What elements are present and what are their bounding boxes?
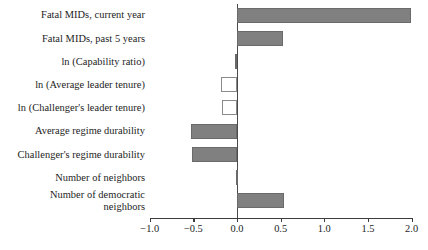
bar-6	[192, 147, 237, 162]
plot-area	[151, 4, 417, 218]
bar-4	[222, 100, 237, 115]
category-label-4: ln (Challenger's leader tenure)	[0, 102, 145, 113]
category-label-8: Number of democratic neighbors	[0, 189, 145, 211]
bar-8	[237, 193, 284, 208]
bar-chart-figure: Fatal MIDs, current yearFatal MIDs, past…	[0, 0, 428, 250]
x-axis: −1.0−0.50.00.51.01.52.0	[151, 218, 417, 248]
bar-2	[235, 54, 237, 69]
x-tick-label-3: 0.5	[259, 223, 303, 234]
x-tick-label-1: −0.5	[171, 223, 215, 234]
x-tick-3	[281, 218, 282, 222]
x-tick-label-6: 2.0	[390, 223, 428, 234]
category-label-3: ln (Average leader tenure)	[0, 79, 145, 90]
x-tick-label-0: −1.0	[128, 223, 172, 234]
x-tick-label-4: 1.0	[302, 223, 346, 234]
x-tick-0	[150, 218, 151, 222]
bar-5	[191, 124, 237, 139]
x-tick-label-5: 1.5	[346, 223, 390, 234]
x-tick-5	[368, 218, 369, 222]
x-tick-label-2: 0.0	[215, 223, 259, 234]
category-label-6: Challenger's regime durability	[0, 149, 145, 160]
category-label-2: ln (Capability ratio)	[0, 56, 145, 67]
x-tick-4	[324, 218, 325, 222]
x-axis-line	[151, 218, 413, 219]
bar-0	[237, 8, 411, 23]
category-label-5: Average regime durability	[0, 125, 145, 136]
x-tick-1	[193, 218, 194, 222]
category-label-column: Fatal MIDs, current yearFatal MIDs, past…	[0, 0, 148, 218]
category-label-1: Fatal MIDs, past 5 years	[0, 33, 145, 44]
bar-7	[236, 170, 238, 185]
category-label-7: Number of neighbors	[0, 172, 145, 183]
x-tick-2	[237, 218, 238, 222]
category-label-0: Fatal MIDs, current year	[0, 9, 145, 20]
bar-1	[237, 31, 283, 46]
bar-3	[221, 77, 237, 92]
x-tick-6	[412, 218, 413, 222]
